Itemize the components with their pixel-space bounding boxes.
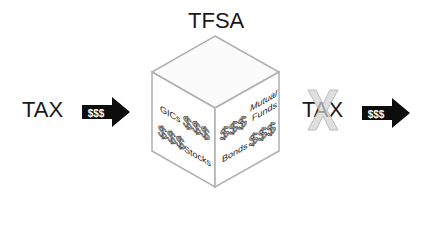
svg-text:$$$: $$$: [368, 109, 385, 120]
money-arrow-right: $$$: [362, 98, 410, 128]
cross-out-icon: [302, 88, 344, 132]
tax-label-left: TAX: [22, 97, 63, 123]
svg-text:$$$: $$$: [88, 108, 105, 119]
tfsa-cube: GICs $$$ $$$ Stocks $$$ Mutual Funds Bon…: [140, 30, 290, 195]
money-arrow-left: $$$: [82, 97, 130, 127]
